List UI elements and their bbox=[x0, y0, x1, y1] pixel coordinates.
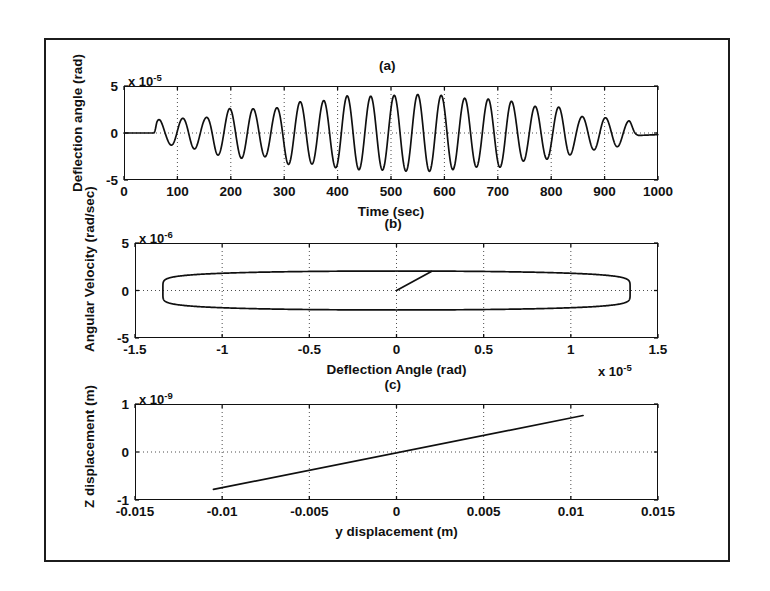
subplot-c-x-tick-2: -0.005 bbox=[290, 504, 328, 519]
subplot-a-y-tick-1: 0 bbox=[90, 126, 118, 141]
subplot-c-x-tick-1: -0.01 bbox=[207, 504, 238, 519]
subplot-c-x-tick-5: 0.01 bbox=[558, 504, 584, 519]
subplot-c-x-axis-title: y displacement (m) bbox=[335, 524, 457, 539]
subplot-a-x-tick-4: 400 bbox=[326, 184, 349, 199]
subplot-b-x-tick-2: -0.5 bbox=[298, 342, 321, 357]
subplot-b-x-exponent-power: -5 bbox=[623, 362, 631, 373]
subplot-a-x-tick-3: 300 bbox=[273, 184, 296, 199]
subplot-a-x-tick-5: 500 bbox=[380, 184, 403, 199]
subplot-b-y-tick-2: 5 bbox=[101, 236, 129, 251]
subplot-b-x-tick-1: -1 bbox=[216, 342, 228, 357]
subplot-c-x-tick-6: 0.015 bbox=[641, 504, 675, 519]
subplot-b-plot-canvas bbox=[129, 237, 664, 344]
subplot-b-x-tick-4: 0.5 bbox=[474, 342, 493, 357]
subplot-c-y-axis-title: Z displacement (m) bbox=[82, 385, 97, 508]
subplot-b-x-tick-5: 1 bbox=[567, 342, 575, 357]
subplot-a-panel-label: (a) bbox=[379, 58, 396, 73]
figure-root: (a) x 10-5 Deflection angle (rad) Time (… bbox=[0, 0, 770, 591]
subplot-a-y-axis-title: Deflection angle (rad) bbox=[70, 54, 85, 192]
subplot-a-x-tick-9: 900 bbox=[593, 184, 616, 199]
subplot-a-x-tick-8: 800 bbox=[540, 184, 563, 199]
subplot-b-x-axis-title: Deflection Angle (rad) bbox=[327, 362, 467, 377]
subplot-a-y-tick-2: 5 bbox=[90, 79, 118, 94]
subplot-b-x-tick-3: 0 bbox=[393, 342, 401, 357]
subplot-a-x-tick-1: 100 bbox=[166, 184, 189, 199]
subplot-c-y-tick-2: 1 bbox=[101, 397, 129, 412]
subplot-b-x-exponent: x 10-5 bbox=[598, 362, 632, 379]
subplot-a-x-tick-10: 1000 bbox=[643, 184, 673, 199]
subplot-a-x-tick-2: 200 bbox=[220, 184, 243, 199]
subplot-c-y-tick-1: 0 bbox=[101, 445, 129, 460]
subplot-c-plot-canvas bbox=[129, 398, 664, 506]
subplot-a-x-tick-7: 700 bbox=[487, 184, 510, 199]
subplot-a-x-tick-0: 0 bbox=[120, 184, 128, 199]
subplot-b-x-tick-0: -1.5 bbox=[123, 342, 146, 357]
subplot-a-x-tick-6: 600 bbox=[433, 184, 456, 199]
subplot-b-x-exponent-base: x 10 bbox=[598, 364, 623, 379]
subplot-b-x-tick-6: 1.5 bbox=[649, 342, 668, 357]
subplot-b-y-tick-1: 0 bbox=[101, 283, 129, 298]
subplot-c-panel-label: (c) bbox=[385, 377, 402, 392]
subplot-c-x-tick-3: 0 bbox=[393, 504, 401, 519]
subplot-c-x-tick-4: 0.005 bbox=[467, 504, 501, 519]
subplot-c-x-tick-0: -0.015 bbox=[116, 504, 154, 519]
subplot-a-plot-canvas bbox=[118, 80, 664, 186]
subplot-b-panel-label: (b) bbox=[385, 216, 402, 231]
subplot-b-y-axis-title: Angular Velocity (rad/sec) bbox=[82, 186, 97, 352]
